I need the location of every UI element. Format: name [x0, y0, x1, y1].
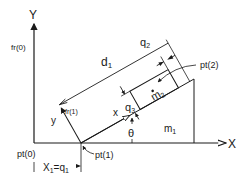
- x1-q1-label: X1=q1: [43, 162, 69, 174]
- q3-label: q3: [125, 101, 135, 114]
- theta-label: θ: [128, 127, 134, 139]
- m2-label: m2: [148, 86, 166, 104]
- d1-label: d1: [101, 55, 113, 70]
- local-x-label: x: [113, 107, 118, 118]
- x-axis: X: [34, 137, 236, 151]
- x1-dimension: X1=q1: [34, 143, 81, 174]
- pt2-label: pt(2): [200, 60, 219, 70]
- y-axis-label: Y: [29, 8, 37, 22]
- fr1-label: fr(1): [65, 108, 78, 116]
- q2-label: q2: [140, 36, 150, 49]
- incline-mechanism-diagram: Y fr(0) X m1 θ: [0, 0, 250, 182]
- local-y-label: y: [51, 115, 56, 126]
- x-axis-label: X: [228, 137, 236, 151]
- pt1-label: pt(1): [95, 150, 114, 160]
- fr0-label: fr(0): [11, 43, 26, 52]
- theta-angle: θ: [128, 118, 134, 143]
- y-axis: Y fr(0): [11, 8, 37, 143]
- m1-label: m1: [164, 123, 176, 135]
- pt0-label: pt(0): [17, 149, 36, 159]
- pt1-callout: pt(1): [83, 146, 114, 160]
